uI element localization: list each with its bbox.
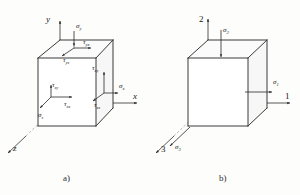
- sigma-3-label: σ3: [175, 143, 181, 152]
- panel-a: y x z σy τyx τyz: [8, 14, 137, 183]
- panel-a-caption: a): [63, 173, 70, 183]
- panel-b-axis-label-3: 3: [161, 144, 166, 154]
- panel-b-caption: b): [219, 173, 227, 183]
- sigma-y-label: σy: [76, 22, 82, 31]
- panel-b: 2 1 3 σ2 σ1 σ3 b): [156, 14, 290, 183]
- panel-b-axis-label-1: 1: [285, 91, 290, 101]
- tau-yx-label: τyx: [83, 38, 90, 47]
- sigma-x-label: σx: [119, 82, 125, 91]
- panel-a-axis-label-x: x: [132, 91, 137, 101]
- panel-a-axis-label-y: y: [45, 14, 50, 24]
- panel-b-axis-label-2: 2: [199, 14, 204, 24]
- sigma-2-label: σ2: [223, 26, 229, 35]
- panel-a-cube: [38, 40, 113, 126]
- panel-b-cube: [188, 40, 267, 126]
- sigma-1-label: σ1: [273, 78, 279, 87]
- panel-a-axis-label-z: z: [12, 143, 17, 153]
- stress-element-figure: y x z σy τyx τyz: [0, 0, 300, 195]
